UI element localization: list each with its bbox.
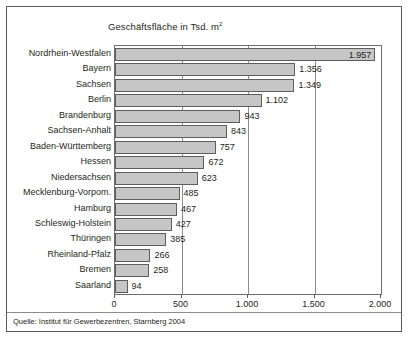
x-tick-label: 1.000 [236,299,259,309]
category-axis-labels: Nordrhein-WestfalenBayernSachsenBerlinBr… [12,45,111,295]
x-tick-mark [380,295,381,298]
bar[interactable] [115,63,295,76]
category-label: Berlin [14,93,111,106]
category-label: Saarland [14,279,111,292]
bar-row[interactable]: 485 [115,187,381,200]
category-label: Baden-Württemberg [14,140,111,153]
bar-value-label: 94 [132,281,142,292]
chart-title-superscript: 2 [219,21,222,27]
bar-row[interactable]: 266 [115,249,381,262]
category-label: Hessen [14,155,111,168]
bar-row[interactable]: 385 [115,233,381,246]
bar-row[interactable]: 1.349 [115,79,381,92]
bar-value-label: 843 [231,126,246,137]
bar-value-label: 266 [154,250,169,261]
x-tick-mark [314,295,315,298]
x-tick-label: 500 [173,299,188,309]
bar-row[interactable]: 94 [115,280,381,293]
bar[interactable] [115,79,294,92]
x-tick-mark [181,295,182,298]
x-tick-label: 0 [111,299,116,309]
bar[interactable] [115,156,204,169]
bar-value-label: 485 [184,188,199,199]
bar-value-label: 1.957 [349,50,372,61]
bar-row[interactable]: 1.102 [115,94,381,107]
bar[interactable] [115,141,216,154]
bar-row[interactable]: 943 [115,110,381,123]
bar[interactable] [115,110,240,123]
bar-value-label: 943 [244,111,259,122]
bar-value-label: 1.102 [266,95,289,106]
x-tick-label: 1.500 [302,299,325,309]
bar-row[interactable]: 843 [115,125,381,138]
bar-value-label: 623 [202,173,217,184]
bar[interactable] [115,203,177,216]
category-label: Rheinland-Pfalz [14,248,111,261]
bar[interactable] [115,233,166,246]
bar-row[interactable]: 757 [115,141,381,154]
bar-value-label: 258 [153,265,168,276]
chart-figure: Geschäftsfläche in Tsd. m2 Nordrhein-Wes… [6,6,402,332]
category-label: Thüringen [14,232,111,245]
bar-value-label: 672 [208,157,223,168]
bar[interactable] [115,125,227,138]
category-label: Sachsen [14,78,111,91]
bar[interactable] [115,187,180,200]
bar-row[interactable]: 672 [115,156,381,169]
bar-row[interactable]: 1.957 [115,48,381,61]
plot-area: 1.9571.3561.3491.10294384375767262348546… [114,45,382,295]
bar[interactable] [115,94,262,107]
bar-value-label: 427 [176,219,191,230]
category-label: Bayern [14,62,111,75]
bar-value-label: 385 [170,234,185,245]
bar[interactable] [115,249,150,262]
chart-title: Geschäftsfläche in Tsd. m2 [108,21,223,32]
bar-value-label: 1.356 [299,64,322,75]
source-note: Quelle: Institut für Gewerbezentren, Sta… [13,317,185,326]
category-label: Bremen [14,263,111,276]
bar[interactable]: 1.957 [115,48,375,61]
bar-value-label: 467 [181,204,196,215]
category-label: Nordrhein-Westfalen [14,47,111,60]
x-tick-mark [247,295,248,298]
x-tick-mark [114,295,115,298]
bar-row[interactable]: 467 [115,203,381,216]
bar-row[interactable]: 427 [115,218,381,231]
bar-row[interactable]: 623 [115,172,381,185]
x-tick-label: 2.000 [369,299,392,309]
bar-value-label: 757 [220,142,235,153]
bar-row[interactable]: 258 [115,264,381,277]
bar-row[interactable]: 1.356 [115,63,381,76]
bar-value-label: 1.349 [298,80,321,91]
footnote-divider [7,312,401,313]
category-label: Schleswig-Holstein [14,217,111,230]
bar[interactable] [115,172,198,185]
chart-title-text: Geschäftsfläche in Tsd. m [108,21,219,32]
bar[interactable] [115,264,149,277]
category-label: Mecklenburg-Vorpom. [14,186,111,199]
category-label: Sachsen-Anhalt [14,124,111,137]
bar[interactable] [115,218,172,231]
category-label: Niedersachsen [14,171,111,184]
category-label: Brandenburg [14,109,111,122]
bar[interactable] [115,280,128,293]
category-label: Hamburg [14,202,111,215]
